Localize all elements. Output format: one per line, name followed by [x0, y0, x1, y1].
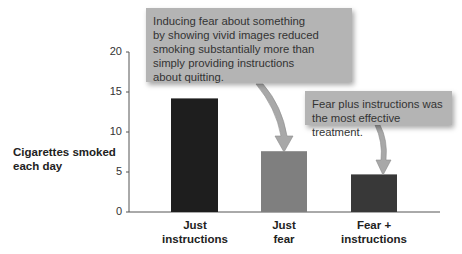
callout-arrow-1 [256, 84, 293, 152]
y-tick-15: 15 [102, 85, 122, 97]
x-label-just-fear: Just fear [239, 218, 329, 246]
bar-fear-instructions [351, 174, 397, 212]
callout-arrow-2 [375, 125, 391, 175]
bar-just-fear [261, 151, 307, 212]
y-tick-10: 10 [102, 125, 122, 137]
callout-fear-images: Inducing fear about something by showing… [146, 8, 352, 82]
callout-fear-plus-instructions: Fear plus instructions was the most effe… [305, 91, 452, 125]
x-label-fear-instructions: Fear + instructions [329, 218, 419, 246]
x-label-just-instructions: Just instructions [150, 218, 240, 246]
y-tick-0: 0 [102, 205, 122, 217]
y-axis-label: Cigarettes smoked each day [13, 145, 116, 173]
y-tick-20: 20 [102, 45, 122, 57]
y-tick-5: 5 [102, 165, 122, 177]
bar-just-instructions [171, 98, 218, 212]
